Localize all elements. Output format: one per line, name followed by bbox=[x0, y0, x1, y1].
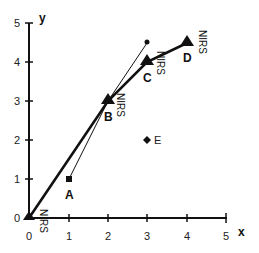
x-tick-label: 4 bbox=[184, 230, 190, 242]
y-tick-label: 1 bbox=[14, 173, 20, 185]
nirs-label-d: NIRS bbox=[197, 30, 208, 54]
x-tick-label: 0 bbox=[26, 230, 32, 242]
point-e-diamond-marker bbox=[143, 136, 151, 144]
x-tick-label: 3 bbox=[144, 230, 150, 242]
y-tick-label: 4 bbox=[14, 56, 20, 68]
x-axis-title: x bbox=[238, 225, 245, 239]
x-tick-label: 2 bbox=[105, 230, 111, 242]
dot-marker bbox=[145, 40, 150, 45]
x-tick-label: 1 bbox=[66, 230, 72, 242]
y-axis-title: y bbox=[39, 11, 46, 25]
y-tick-label: 3 bbox=[14, 95, 20, 107]
nirs-label-origin: NIRS bbox=[38, 209, 49, 233]
y-tick-label: 5 bbox=[14, 17, 20, 29]
point-c-label: C bbox=[143, 71, 152, 85]
y-tick-label: 2 bbox=[14, 134, 20, 146]
point-a-square-marker bbox=[66, 176, 72, 182]
point-a-label: A bbox=[65, 188, 74, 202]
nirs-label-b: NIRS bbox=[115, 93, 126, 117]
x-tick-label: 5 bbox=[223, 230, 229, 242]
y-tick-label: 0 bbox=[14, 212, 20, 224]
point-e-label: E bbox=[154, 134, 161, 146]
point-b-label: B bbox=[104, 110, 113, 124]
point-d-triangle-marker bbox=[180, 35, 194, 46]
chart: 5 4 3 2 1 0 0 1 2 3 4 5 y x A B C D E NI… bbox=[0, 0, 259, 253]
point-d-label: D bbox=[183, 51, 192, 65]
nirs-label-c: NIRS bbox=[155, 51, 166, 75]
